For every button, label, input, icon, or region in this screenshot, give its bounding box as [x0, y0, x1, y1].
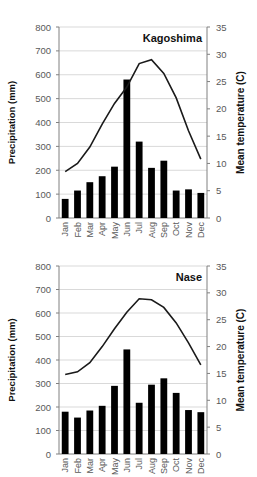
right-tick-label: 30 — [216, 287, 227, 298]
month-label: Dec — [196, 458, 206, 475]
month-label: May — [110, 222, 120, 240]
month-label: Dec — [196, 222, 206, 239]
y2-axis-title: Mean temperature (C) — [235, 309, 246, 412]
left-tick-label: 400 — [35, 117, 51, 128]
left-tick-label: 800 — [35, 261, 51, 272]
chart-title: Kagoshima — [143, 32, 203, 44]
right-tick-label: 35 — [216, 22, 227, 33]
precipitation-bar-oct — [173, 191, 180, 218]
precipitation-bar-jul — [136, 403, 143, 454]
right-tick-label: 5 — [216, 185, 221, 196]
left-tick-label: 500 — [35, 331, 51, 342]
left-tick-label: 600 — [35, 308, 51, 319]
month-label: Feb — [73, 458, 83, 474]
left-tick-label: 600 — [35, 69, 51, 80]
precipitation-bar-aug — [148, 168, 155, 218]
month-label: Jul — [134, 458, 144, 470]
month-label: Feb — [73, 222, 83, 238]
precipitation-bar-nov — [185, 410, 192, 454]
precipitation-bar-mar — [86, 182, 93, 218]
month-label: Jan — [60, 222, 70, 237]
precipitation-bar-sep — [160, 378, 167, 454]
month-label: Nov — [184, 458, 194, 475]
right-tick-label: 10 — [216, 158, 227, 169]
precipitation-bar-jan — [62, 412, 69, 454]
month-label: Nov — [184, 222, 194, 239]
precipitation-bar-jun — [123, 80, 130, 218]
left-tick-label: 0 — [46, 213, 51, 224]
precipitation-bar-aug — [148, 385, 155, 454]
month-label: Sep — [159, 222, 169, 238]
month-label: Oct — [171, 458, 181, 473]
right-tick-label: 0 — [216, 213, 221, 224]
right-tick-label: 5 — [216, 422, 221, 433]
left-tick-label: 400 — [35, 355, 51, 366]
month-label: Jul — [134, 222, 144, 234]
precipitation-bar-apr — [99, 176, 106, 218]
precipitation-bar-dec — [197, 412, 204, 454]
y2-axis-title: Mean temperature (C) — [235, 71, 246, 174]
month-label: Oct — [171, 222, 181, 237]
left-tick-label: 100 — [35, 425, 51, 436]
left-tick-label: 300 — [35, 141, 51, 152]
right-tick-label: 20 — [216, 103, 227, 114]
y-axis-title: Precipitation (mm) — [6, 81, 17, 164]
temperature-line — [65, 299, 201, 375]
month-label: Aug — [147, 222, 157, 238]
precipitation-bar-mar — [86, 411, 93, 454]
kagoshima-climate-plot: 010020030040050060070080005101520253035J… — [0, 0, 257, 240]
right-tick-label: 30 — [216, 49, 227, 60]
right-tick-label: 35 — [216, 261, 227, 272]
temperature-line — [65, 60, 201, 172]
left-tick-label: 300 — [35, 378, 51, 389]
left-tick-label: 200 — [35, 402, 51, 413]
right-tick-label: 25 — [216, 314, 227, 325]
chart-kagoshima: 010020030040050060070080005101520253035J… — [0, 0, 257, 240]
precipitation-bar-nov — [185, 189, 192, 218]
precipitation-bar-may — [111, 386, 118, 454]
left-tick-label: 800 — [35, 22, 51, 33]
month-label: Aug — [147, 458, 157, 474]
left-tick-label: 700 — [35, 284, 51, 295]
month-label: Mar — [85, 458, 95, 474]
chart-title: Nase — [176, 271, 202, 283]
right-tick-label: 20 — [216, 341, 227, 352]
precipitation-bar-may — [111, 167, 118, 218]
left-tick-label: 100 — [35, 189, 51, 200]
month-label: Jun — [122, 458, 132, 473]
month-label: Apr — [97, 222, 107, 236]
precipitation-bar-feb — [74, 418, 81, 454]
month-label: May — [110, 458, 120, 476]
left-tick-label: 200 — [35, 165, 51, 176]
precipitation-bar-jan — [62, 199, 69, 218]
month-label: Jun — [122, 222, 132, 237]
left-tick-label: 700 — [35, 45, 51, 56]
left-tick-label: 500 — [35, 93, 51, 104]
right-tick-label: 25 — [216, 76, 227, 87]
right-tick-label: 0 — [216, 449, 221, 460]
month-label: Mar — [85, 222, 95, 238]
precipitation-bar-dec — [197, 193, 204, 218]
y-axis-title: Precipitation (mm) — [6, 318, 17, 401]
precipitation-bar-sep — [160, 161, 167, 218]
right-tick-label: 10 — [216, 395, 227, 406]
right-tick-label: 15 — [216, 368, 227, 379]
month-label: Apr — [97, 458, 107, 472]
precipitation-bar-oct — [173, 393, 180, 454]
precipitation-bar-jul — [136, 142, 143, 218]
precipitation-bar-apr — [99, 406, 106, 454]
left-tick-label: 0 — [46, 449, 51, 460]
right-tick-label: 15 — [216, 131, 227, 142]
month-label: Jan — [60, 458, 70, 473]
month-label: Sep — [159, 458, 169, 474]
precipitation-bar-feb — [74, 191, 81, 218]
precipitation-bar-jun — [123, 349, 130, 454]
